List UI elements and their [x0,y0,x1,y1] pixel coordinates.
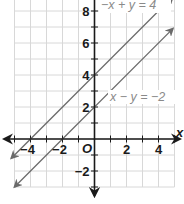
x-tick-label: 4 [155,142,163,157]
line-neg-x-plus-y-eq-4 [11,0,173,158]
equation-label-line2: x − y = −2 [109,90,165,104]
y-tick-label: 8 [82,4,89,19]
y-tick-label: 4 [82,68,90,83]
x-axis-label: x [175,125,184,140]
equation-label-line1: −x + y = 4 [101,0,156,12]
coordinate-graph: x O −4−224 8642−2 −x + y = 4 x − y = −2 [0,0,184,204]
y-tick-label: 6 [82,36,89,51]
x-tick-label: −4 [20,142,36,157]
y-tick-label: −2 [75,164,90,179]
origin-label: O [82,141,92,156]
x-tick-label: −2 [52,142,67,157]
x-tick-label: 2 [123,142,130,157]
y-tick-label: 2 [82,100,89,115]
